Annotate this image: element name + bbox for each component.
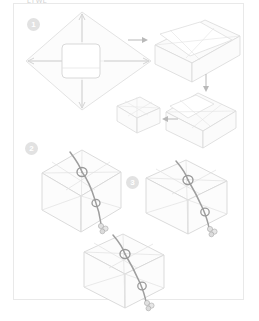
top-caption: LTWL — [27, 0, 47, 4]
step-badge-1: 1 — [27, 18, 40, 31]
step-2-description: wrapped box tied with a knotted cord on … — [0, 0, 1, 1]
step-3-description: finished wrapped box with cord knot and … — [0, 0, 1, 1]
step-1-description: flat square cloth laid as a diamond with… — [0, 0, 1, 1]
diagram-sheet: LTWL — [0, 0, 259, 321]
page-frame — [13, 3, 244, 300]
step-badge-3: 3 — [126, 176, 139, 189]
step-badge-2: 2 — [25, 142, 38, 155]
tassel-final — [144, 300, 154, 310]
